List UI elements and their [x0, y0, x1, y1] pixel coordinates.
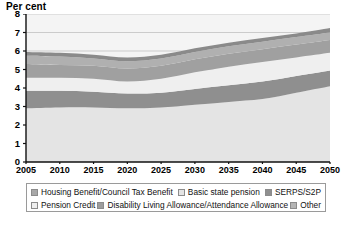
x-tick-label: 2015	[78, 166, 110, 175]
legend-item[interactable]: Basic state pension	[178, 188, 260, 197]
x-tick-label: 2045	[280, 166, 312, 175]
plot-area	[0, 14, 336, 164]
legend-swatch-icon	[290, 202, 297, 209]
x-tick-label: 2005	[10, 166, 42, 175]
legend-label: Housing Benefit/Council Tax Benefit	[41, 188, 173, 197]
y-tick-label: 7	[4, 28, 20, 37]
x-tick-label: 2030	[179, 166, 211, 175]
legend-label: Basic state pension	[188, 188, 260, 197]
legend-swatch-icon	[31, 189, 38, 196]
x-tick-label: 2035	[213, 166, 245, 175]
y-tick-label: 8	[4, 9, 20, 18]
x-tick-label: 2050	[314, 166, 345, 175]
legend-swatch-icon	[31, 202, 38, 209]
legend-swatch-icon	[265, 189, 272, 196]
legend-row-2: Pension CreditDisability Living Allowanc…	[31, 199, 322, 212]
y-tick-label: 2	[4, 120, 20, 129]
legend-label: SERPS/S2P	[275, 188, 321, 197]
legend-item[interactable]: Housing Benefit/Council Tax Benefit	[31, 188, 173, 197]
legend-label: Other	[300, 201, 321, 210]
legend-label: Disability Living Allowance/Attendance A…	[107, 201, 288, 210]
legend-swatch-icon	[97, 202, 104, 209]
legend-item[interactable]: Other	[290, 201, 321, 210]
legend-row-1: Housing Benefit/Council Tax BenefitBasic…	[31, 186, 322, 199]
legend-item[interactable]: Pension Credit	[31, 201, 95, 210]
x-tick-label: 2020	[111, 166, 143, 175]
y-tick-label: 5	[4, 65, 20, 74]
legend-item[interactable]: Disability Living Allowance/Attendance A…	[97, 201, 288, 210]
y-tick-label: 6	[4, 46, 20, 55]
x-tick-label: 2010	[44, 166, 76, 175]
legend-item[interactable]: SERPS/S2P	[265, 188, 321, 197]
chart-legend: Housing Benefit/Council Tax BenefitBasic…	[26, 183, 326, 212]
y-tick-label: 1	[4, 139, 20, 148]
legend-swatch-icon	[178, 189, 185, 196]
x-tick-label: 2025	[145, 166, 177, 175]
legend-label: Pension Credit	[41, 201, 95, 210]
x-tick-label: 2040	[246, 166, 278, 175]
y-tick-label: 4	[4, 83, 20, 92]
plot-svg	[0, 14, 336, 164]
y-tick-label: 3	[4, 102, 20, 111]
